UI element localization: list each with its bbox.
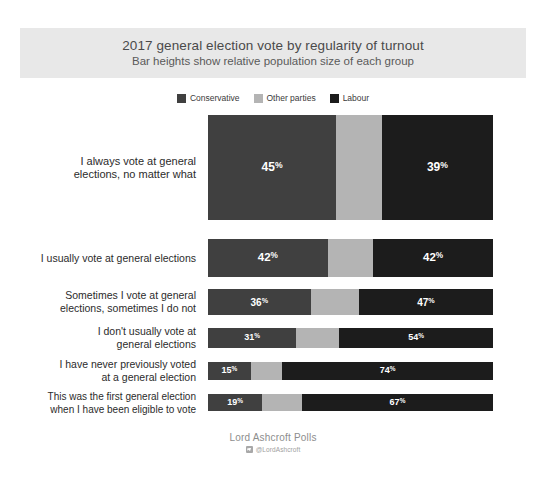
bar-segment-labour[interactable]: 54% <box>339 328 493 348</box>
chart-row: I have never previously voted at a gener… <box>0 362 546 380</box>
bar-value-number: 36 <box>251 296 262 307</box>
stacked-bar[interactable]: 42%42% <box>208 239 493 277</box>
percent-sign: % <box>232 365 238 372</box>
bar-segment-other-parties[interactable] <box>262 394 302 411</box>
bar-value-label: 15% <box>221 366 237 375</box>
bar-value-label: 67% <box>390 398 406 407</box>
chart-row: I usually vote at general elections42%42… <box>0 239 546 277</box>
category-label: I usually vote at general elections <box>0 252 208 265</box>
legend-swatch-icon <box>330 94 339 103</box>
category-label: I have never previously voted at a gener… <box>0 358 208 384</box>
twitter-icon <box>246 446 253 453</box>
category-label: This was the first general election when… <box>0 390 208 416</box>
twitter-handle-group: @LordAshcroft <box>246 446 301 453</box>
chart-row: This was the first general election when… <box>0 394 546 411</box>
percent-sign: % <box>262 296 268 305</box>
chart-row: I always vote at general elections, no m… <box>0 115 546 220</box>
bar-segment-conservative[interactable]: 36% <box>208 289 311 315</box>
bar-value-label: 45% <box>262 161 283 173</box>
chart-row: I don't usually vote at general election… <box>0 328 546 348</box>
category-label: I always vote at general elections, no m… <box>0 155 208 181</box>
bar-value-label: 42% <box>258 252 278 264</box>
bar-value-label: 19% <box>227 398 243 407</box>
bar-segment-conservative[interactable]: 45% <box>208 115 336 220</box>
chart-row: Sometimes I vote at general elections, s… <box>0 289 546 315</box>
bar-value-number: 67 <box>390 397 400 407</box>
bar-value-number: 45 <box>262 161 275 175</box>
category-label: Sometimes I vote at general elections, s… <box>0 289 208 315</box>
bar-segment-conservative[interactable]: 31% <box>208 328 296 348</box>
bar-value-number: 54 <box>408 333 418 343</box>
percent-sign: % <box>418 332 424 339</box>
bar-value-number: 42 <box>258 251 271 263</box>
bar-segment-labour[interactable]: 42% <box>373 239 493 277</box>
stacked-bar[interactable]: 45%39% <box>208 115 493 220</box>
bar-value-label: 47% <box>417 297 435 308</box>
bar-segment-other-parties[interactable] <box>328 239 374 277</box>
bar-segment-other-parties[interactable] <box>336 115 382 220</box>
legend-label: Other parties <box>267 93 316 103</box>
legend-swatch-icon <box>254 94 263 103</box>
twitter-handle: @LordAshcroft <box>256 446 301 453</box>
bar-segment-labour[interactable]: 67% <box>302 394 493 411</box>
source-credit: Lord Ashcroft Polls <box>229 432 316 443</box>
percent-sign: % <box>237 397 243 404</box>
percent-sign: % <box>440 160 448 170</box>
legend-item[interactable]: Conservative <box>177 93 240 103</box>
percent-sign: % <box>390 365 396 372</box>
bar-segment-labour[interactable]: 39% <box>382 115 493 220</box>
percent-sign: % <box>428 296 434 305</box>
stacked-bar[interactable]: 36%47% <box>208 289 493 315</box>
bar-value-label: 31% <box>244 333 260 342</box>
bar-segment-labour[interactable]: 47% <box>359 289 493 315</box>
bar-value-number: 39 <box>427 161 440 175</box>
percent-sign: % <box>436 251 443 260</box>
percent-sign: % <box>271 251 278 260</box>
bar-segment-other-parties[interactable] <box>296 328 339 348</box>
bar-segment-conservative[interactable]: 19% <box>208 394 262 411</box>
legend-item[interactable]: Labour <box>330 93 369 103</box>
stacked-bar[interactable]: 19%67% <box>208 394 493 411</box>
title-band: 2017 general election vote by regularity… <box>20 28 526 78</box>
bar-value-label: 39% <box>427 161 448 173</box>
legend-label: Conservative <box>190 93 240 103</box>
bar-value-label: 36% <box>251 297 269 308</box>
chart-legend: ConservativeOther partiesLabour <box>0 93 546 103</box>
bar-segment-conservative[interactable]: 42% <box>208 239 328 277</box>
percent-sign: % <box>275 160 283 170</box>
plot-area: I always vote at general elections, no m… <box>0 113 546 423</box>
bar-segment-labour[interactable]: 74% <box>282 362 493 380</box>
category-label: I don't usually vote at general election… <box>0 325 208 351</box>
bar-value-number: 15 <box>221 366 231 376</box>
stacked-bar[interactable]: 15%74% <box>208 362 493 380</box>
bar-value-number: 31 <box>244 333 254 343</box>
percent-sign: % <box>254 332 260 339</box>
legend-swatch-icon <box>177 94 186 103</box>
bar-value-number: 47 <box>417 296 428 307</box>
bar-value-number: 42 <box>423 251 436 263</box>
bar-value-label: 54% <box>408 333 424 342</box>
bar-value-number: 19 <box>227 397 237 407</box>
legend-label: Labour <box>343 93 369 103</box>
legend-item[interactable]: Other parties <box>254 93 316 103</box>
bar-value-label: 74% <box>380 366 396 375</box>
percent-sign: % <box>400 397 406 404</box>
bar-value-label: 42% <box>423 252 443 264</box>
bar-segment-other-parties[interactable] <box>251 362 282 380</box>
page-title: 2017 general election vote by regularity… <box>122 37 424 54</box>
stacked-bar[interactable]: 31%54% <box>208 328 493 348</box>
bar-value-number: 74 <box>380 366 390 376</box>
chart-subtitle: Bar heights show relative population siz… <box>132 54 414 69</box>
chart-footer: Lord Ashcroft Polls @LordAshcroft <box>0 432 546 453</box>
bar-segment-other-parties[interactable] <box>311 289 359 315</box>
chart-figure: 2017 general election vote by regularity… <box>0 0 546 492</box>
bar-segment-conservative[interactable]: 15% <box>208 362 251 380</box>
